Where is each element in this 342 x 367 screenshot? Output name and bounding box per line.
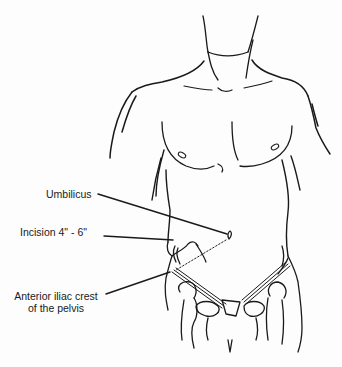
neck-outline <box>203 16 258 80</box>
iliac-crest-label: Anterior iliac crest of the pelvis <box>8 290 104 314</box>
umbilicus-leader <box>98 194 227 234</box>
iliac-leader <box>106 272 170 294</box>
chest-outline <box>162 122 292 172</box>
umbilicus-mark <box>228 231 231 239</box>
iliac-crest-label-line1: Anterior iliac crest <box>8 290 104 302</box>
illustration-canvas: Umbilicus Incision 4" - 6" Anterior ilia… <box>0 0 342 367</box>
iliac-crest-label-line2: of the pelvis <box>8 302 104 314</box>
pelvis <box>179 282 286 352</box>
nipples <box>177 143 279 159</box>
incision-leader <box>104 236 173 240</box>
right-hip <box>278 246 302 352</box>
leader-lines <box>98 194 227 294</box>
clavicles <box>184 81 272 91</box>
incision-line <box>176 240 226 270</box>
left-hip <box>165 242 206 310</box>
umbilicus-label: Umbilicus <box>46 188 92 200</box>
incision-label: Incision 4" - 6" <box>20 226 87 238</box>
shoulders-outline <box>110 60 330 158</box>
